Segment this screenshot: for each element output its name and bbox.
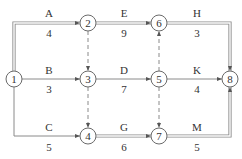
- node-3: 3: [80, 71, 96, 87]
- node-5-label: 5: [156, 73, 162, 85]
- node-3-label: 3: [85, 73, 91, 85]
- activity-B-duration: 3: [46, 83, 52, 95]
- activity-H-duration: 3: [194, 27, 200, 39]
- arrow-head-icon: [217, 77, 222, 81]
- arrow-head-icon: [75, 134, 80, 138]
- activity-E-name: E: [121, 7, 128, 19]
- activity-G-name: G: [120, 121, 128, 133]
- activity-A-duration: 4: [46, 27, 52, 39]
- node-6-label: 6: [156, 17, 162, 29]
- node-2: 2: [80, 15, 96, 31]
- activity-C-duration: 5: [46, 141, 52, 153]
- arrow-head-icon: [146, 77, 151, 81]
- node-6: 6: [151, 15, 167, 31]
- node-4: 4: [80, 128, 96, 144]
- activity-E-duration: 9: [121, 27, 127, 39]
- node-1: 1: [6, 71, 22, 87]
- activity-D-duration: 7: [121, 83, 127, 95]
- arrow-head-icon: [86, 66, 90, 71]
- arrow-head-icon: [157, 31, 161, 36]
- node-8-label: 8: [227, 73, 233, 85]
- arrow-head-icon: [75, 77, 80, 81]
- activity-M-name: M: [192, 121, 202, 133]
- node-1-label: 1: [11, 73, 17, 85]
- activity-K-duration: 4: [194, 83, 200, 95]
- node-5: 5: [151, 71, 167, 87]
- activity-G-duration: 6: [121, 141, 127, 153]
- activity-D-name: D: [120, 64, 128, 76]
- activity-M-duration: 5: [194, 141, 200, 153]
- activity-H-name: H: [193, 7, 201, 19]
- activity-K-name: K: [193, 64, 201, 76]
- node-7-label: 7: [156, 130, 162, 142]
- activity-B-name: B: [45, 64, 52, 76]
- node-4-label: 4: [85, 130, 91, 142]
- network-diagram: A 4 B 3 C 5 E 9 D 7 G 6 H 3 K 4 M 5 1 2 …: [0, 0, 242, 159]
- arrow-head-icon: [86, 123, 90, 128]
- activity-A-name: A: [45, 7, 53, 19]
- activity-C-name: C: [45, 121, 52, 133]
- arrow-head-icon: [157, 123, 161, 128]
- node-7: 7: [151, 128, 167, 144]
- node-2-label: 2: [85, 17, 91, 29]
- node-8: 8: [222, 71, 238, 87]
